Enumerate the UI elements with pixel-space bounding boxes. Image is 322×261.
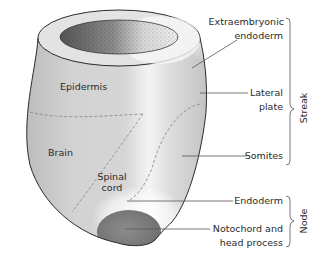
node-region	[97, 210, 161, 254]
label-notochord-line1: Notochord and	[213, 223, 283, 234]
brace-streak	[286, 18, 294, 165]
label-node: Node	[298, 208, 309, 233]
embryo-fate-map-diagram: Epidermis Brain Spinal cord Extraembryon…	[0, 0, 322, 261]
label-endoderm: Endoderm	[234, 195, 283, 206]
label-epidermis: Epidermis	[60, 81, 107, 92]
embryo-rim	[38, 10, 200, 66]
label-lateral-line2: plate	[259, 101, 283, 112]
label-lateral-line1: Lateral	[250, 87, 283, 98]
label-spinal-cord-line2: cord	[102, 182, 123, 193]
label-spinal-cord-line1: Spinal	[97, 171, 126, 182]
label-brain: Brain	[48, 147, 73, 158]
label-streak: Streak	[298, 92, 309, 123]
label-notochord-line2: head process	[220, 237, 283, 248]
diagram-svg: Epidermis Brain Spinal cord Extraembryon…	[0, 0, 322, 261]
label-somites: Somites	[245, 150, 283, 161]
label-extraembryonic-line1: Extraembryonic	[209, 16, 284, 27]
label-extraembryonic-line2: endoderm	[234, 30, 283, 41]
brace-node	[286, 196, 294, 247]
